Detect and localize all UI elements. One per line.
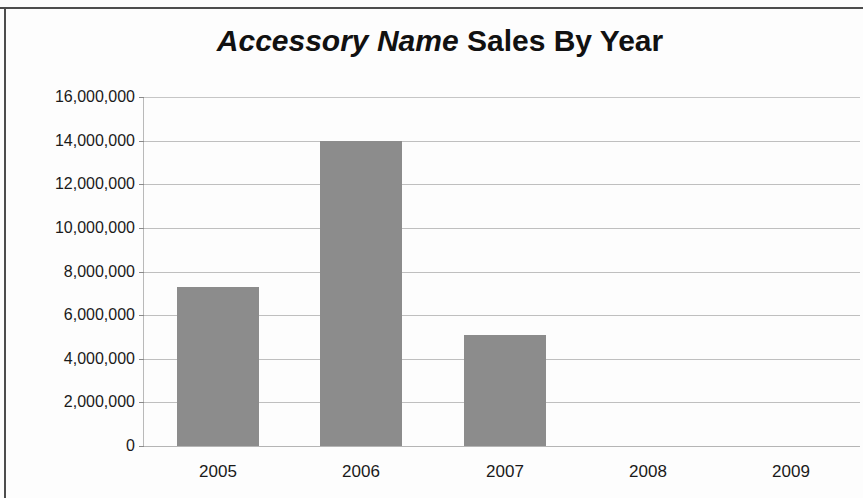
gridline bbox=[143, 141, 860, 142]
y-axis-tick-label: 0 bbox=[5, 438, 135, 454]
x-axis-tick-label: 2006 bbox=[288, 462, 434, 482]
y-axis-tick-label: 14,000,000 bbox=[5, 133, 135, 149]
gridline bbox=[143, 228, 860, 229]
y-axis-tick-label: 6,000,000 bbox=[5, 307, 135, 323]
x-axis-tick-label: 2007 bbox=[432, 462, 578, 482]
y-axis-tick bbox=[139, 359, 144, 360]
bar-2006 bbox=[320, 141, 402, 446]
gridline bbox=[143, 272, 860, 273]
chart-title-emphasis: Accessory Name bbox=[217, 24, 459, 57]
plot-area bbox=[143, 97, 860, 446]
y-axis-tick bbox=[139, 272, 144, 273]
bar-2005 bbox=[177, 287, 259, 446]
y-axis-tick-label: 12,000,000 bbox=[5, 176, 135, 192]
x-axis-tick-label: 2009 bbox=[718, 462, 863, 482]
chart-title: Accessory Name Sales By Year bbox=[20, 22, 860, 60]
y-axis-tick-label: 8,000,000 bbox=[5, 264, 135, 280]
y-axis-tick bbox=[139, 402, 144, 403]
y-axis-tick bbox=[139, 97, 144, 98]
y-axis-labels: 02,000,0004,000,0006,000,0008,000,00010,… bbox=[0, 0, 135, 498]
y-axis-tick-label: 10,000,000 bbox=[5, 220, 135, 236]
y-axis-tick bbox=[139, 446, 144, 447]
x-axis-tick-label: 2005 bbox=[145, 462, 291, 482]
y-axis-tick bbox=[139, 184, 144, 185]
y-axis-tick-label: 4,000,000 bbox=[5, 351, 135, 367]
y-axis-tick bbox=[139, 315, 144, 316]
y-axis-tick bbox=[139, 228, 144, 229]
bar-2007 bbox=[464, 335, 546, 446]
gridline bbox=[143, 446, 860, 447]
chart-title-rest: Sales By Year bbox=[459, 24, 664, 57]
gridline bbox=[143, 97, 860, 98]
y-axis-tick-label: 16,000,000 bbox=[5, 89, 135, 105]
chart-page: Accessory Name Sales By Year 02,000,0004… bbox=[0, 0, 863, 498]
y-axis-tick bbox=[139, 141, 144, 142]
x-axis-labels: 20052006200720082009 bbox=[143, 462, 860, 490]
gridline bbox=[143, 184, 860, 185]
x-axis-tick-label: 2008 bbox=[575, 462, 721, 482]
y-axis-tick-label: 2,000,000 bbox=[5, 394, 135, 410]
